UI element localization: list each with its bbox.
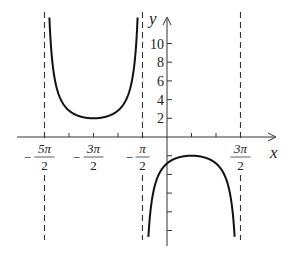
fraction-denominator: 2	[237, 158, 244, 173]
y-tick-label: 2	[157, 111, 164, 126]
curve-branch-lower	[148, 156, 234, 237]
fraction-numerator: π	[139, 141, 146, 156]
labels: 246810xy−5π2−3π2−π23π2	[24, 9, 278, 173]
x-tick-label: −3π2	[73, 141, 104, 173]
x-axis-label: x	[269, 143, 278, 162]
y-tick-label: 8	[157, 55, 164, 70]
csc-graph: 246810xy−5π2−3π2−π23π2	[0, 0, 285, 256]
curve-branch-upper	[49, 17, 137, 118]
fraction-numerator: 5π	[38, 141, 52, 156]
y-tick-label: 4	[157, 93, 164, 108]
minus-sign: −	[126, 150, 133, 165]
fraction-denominator: 2	[41, 158, 48, 173]
fraction-denominator: 2	[139, 158, 146, 173]
y-axis-label: y	[147, 9, 157, 28]
x-tick-label: 3π2	[230, 141, 250, 173]
y-tick-label: 6	[157, 74, 164, 89]
asymptotes	[44, 12, 240, 240]
y-tick-label: 10	[150, 37, 164, 52]
axes	[17, 17, 276, 246]
minus-sign: −	[24, 150, 31, 165]
fraction-denominator: 2	[90, 158, 97, 173]
fraction-numerator: 3π	[86, 141, 101, 156]
x-tick-label: −5π2	[24, 141, 55, 173]
x-tick-label: −π2	[126, 141, 150, 173]
minus-sign: −	[73, 150, 80, 165]
fraction-numerator: 3π	[233, 141, 248, 156]
